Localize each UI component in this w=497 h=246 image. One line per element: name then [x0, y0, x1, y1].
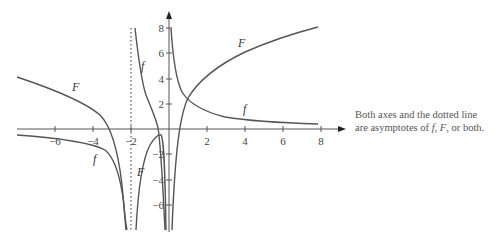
y-tick-label: 8 — [159, 22, 165, 34]
F-curve-left — [17, 77, 126, 230]
caption-text: , or both. — [446, 122, 484, 133]
curve-label-F: F — [136, 165, 145, 179]
y-tick-label: 6 — [159, 47, 165, 59]
y-axis-arrow-icon — [166, 11, 172, 19]
chart: −6 −4 −2 2 4 6 8 8 6 4 2 −2 −4 −6 F f F … — [0, 0, 350, 246]
x-tick-label: 2 — [204, 135, 210, 147]
y-tick-label: 2 — [159, 98, 165, 110]
f-curve-left — [17, 135, 127, 230]
x-tick-label: −2 — [125, 135, 137, 147]
curve-label-F: F — [237, 36, 246, 50]
curve-label-f: f — [141, 59, 146, 73]
curve-label-F: F — [71, 80, 80, 94]
x-tick-label: 8 — [318, 135, 324, 147]
caption-line-2: are asymptotes of f, F, or both. — [355, 121, 495, 134]
curve-label-f: f — [243, 102, 248, 116]
x-tick-label: 4 — [242, 135, 248, 147]
y-tick-label: 4 — [159, 73, 165, 85]
caption-line-1: Both axes and the dotted line — [355, 108, 495, 121]
caption: Both axes and the dotted line are asympt… — [355, 108, 495, 134]
x-axis-arrow-icon — [338, 126, 346, 132]
caption-text: are asymptotes of — [355, 122, 432, 133]
x-tick-label: 6 — [280, 135, 286, 147]
y-tick-label: −2 — [152, 148, 164, 160]
curve-label-f: f — [93, 152, 98, 166]
y-tick-label: −6 — [152, 199, 164, 211]
x-tick-label: −6 — [49, 135, 61, 147]
